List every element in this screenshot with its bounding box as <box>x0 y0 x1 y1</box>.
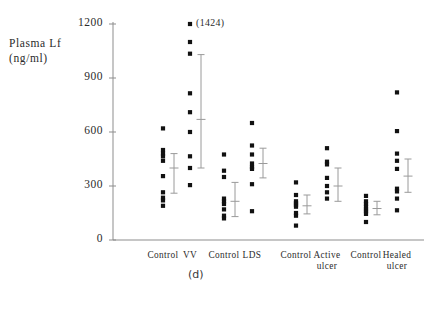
data-point <box>188 130 192 134</box>
data-point <box>222 175 226 179</box>
data-point <box>325 184 329 188</box>
data-point <box>364 194 368 198</box>
data-point <box>325 176 329 180</box>
data-point <box>294 205 298 209</box>
data-point <box>325 197 329 201</box>
data-point <box>395 90 399 94</box>
data-point <box>364 212 368 216</box>
data-point <box>188 91 192 95</box>
x-tick-label-line: Healed <box>374 250 420 261</box>
data-point <box>188 40 192 44</box>
data-point <box>222 152 226 156</box>
data-point <box>222 216 226 220</box>
data-point <box>161 159 165 163</box>
data-point <box>395 208 399 212</box>
data-point <box>395 189 399 193</box>
data-point <box>161 198 165 202</box>
y-tick-label: 300 <box>61 178 103 190</box>
data-point <box>161 154 165 158</box>
data-point <box>188 154 192 158</box>
data-point <box>250 143 254 147</box>
data-point <box>294 193 298 197</box>
x-tick-label-line: ulcer <box>374 261 420 272</box>
x-tick-label-line: LDS <box>229 250 275 261</box>
y-tick-label: 0 <box>61 232 103 244</box>
data-point <box>395 129 399 133</box>
data-point <box>222 207 226 211</box>
data-point <box>325 146 329 150</box>
data-point <box>161 126 165 130</box>
data-point <box>325 162 329 166</box>
y-tick-label: 900 <box>61 70 103 82</box>
data-point <box>161 204 165 208</box>
data-point <box>250 161 254 165</box>
data-point <box>250 152 254 156</box>
data-point <box>395 152 399 156</box>
data-point <box>294 224 298 228</box>
scatter-plot-canvas <box>0 0 430 310</box>
data-point <box>250 182 254 186</box>
x-tick-label: Healedulcer <box>374 250 420 272</box>
data-point <box>188 22 192 26</box>
data-point <box>188 52 192 56</box>
data-point <box>161 174 165 178</box>
data-point <box>250 121 254 125</box>
data-point <box>222 202 226 206</box>
data-point <box>364 220 368 224</box>
data-point <box>250 209 254 213</box>
data-point <box>325 190 329 194</box>
data-point <box>222 169 226 173</box>
data-point <box>395 167 399 171</box>
data-point <box>188 183 192 187</box>
data-point <box>395 159 399 163</box>
data-point <box>294 214 298 218</box>
data-point <box>395 197 399 201</box>
data-point <box>188 166 192 170</box>
data-point <box>161 190 165 194</box>
data-point <box>188 110 192 114</box>
figure-panel: Plasma Lf (ng/ml) (1424) (d) 03006009001… <box>0 0 430 310</box>
data-point <box>294 180 298 184</box>
data-point <box>250 167 254 171</box>
data-point <box>161 148 165 152</box>
y-tick-label: 1200 <box>61 16 103 28</box>
x-tick-label: LDS <box>229 250 275 261</box>
y-tick-label: 600 <box>61 124 103 136</box>
x-tick-label-line: ulcer <box>304 261 350 272</box>
